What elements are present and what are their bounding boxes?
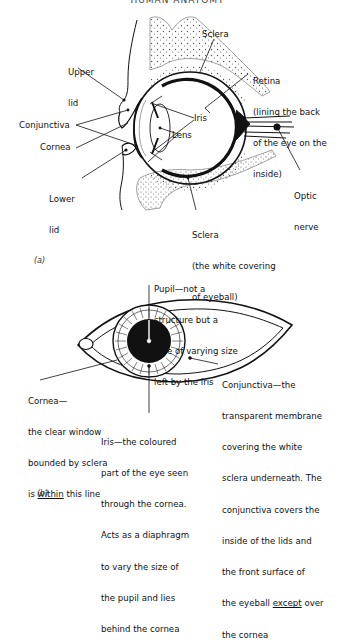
label-sclera-top: Sclera xyxy=(202,29,229,39)
label-line: lid xyxy=(68,98,94,108)
label-line: sclera underneath. The xyxy=(222,473,324,483)
label-line: behind the cornea xyxy=(101,624,189,634)
text-span: this line xyxy=(64,489,101,499)
label-line: bounded by sclera xyxy=(28,458,107,468)
label-optic-nerve: Optic nerve xyxy=(294,170,319,243)
label-line: Iris—the coloured xyxy=(101,437,189,447)
label-upper-lid: Upper lid xyxy=(68,46,94,119)
label-line: Pupil—not a xyxy=(154,284,238,294)
figure-b-caption: (b) xyxy=(37,489,48,498)
label-line: of the eye on the xyxy=(253,138,327,148)
label-line: inside of the lids and xyxy=(222,536,324,546)
label-line: (lining the back xyxy=(253,107,327,117)
label-line: hole of varying size xyxy=(154,346,238,356)
label-lens: Lens xyxy=(172,130,192,140)
label-line: the clear window xyxy=(28,427,107,437)
text-span: over xyxy=(302,598,324,608)
label-line: Acts as a diaphragm xyxy=(101,530,189,540)
label-line: the front surface of xyxy=(222,567,324,577)
label-line: to vary the size of xyxy=(101,562,189,572)
emphasis-except: except xyxy=(273,598,302,608)
label-line: Lower xyxy=(49,194,75,204)
label-conjunctiva-b: Conjunctiva—the transparent membrane cov… xyxy=(222,359,324,642)
label-conjunctiva: Conjunctiva xyxy=(19,120,70,130)
label-iris-b: Iris—the coloured part of the eye seen t… xyxy=(101,416,189,642)
label-line: Optic xyxy=(294,191,319,201)
label-line: transparent membrane xyxy=(222,411,324,421)
label-lower-lid: Lower lid xyxy=(49,173,75,246)
label-line: lid xyxy=(49,225,75,235)
figure-a-caption: (a) xyxy=(34,256,45,265)
label-line: part of the eye seen xyxy=(101,468,189,478)
retina-lining xyxy=(162,79,236,176)
label-line: the cornea xyxy=(222,630,324,640)
cornea-inner xyxy=(139,100,146,156)
label-line: nerve xyxy=(294,222,319,232)
label-line: Conjunctiva—the xyxy=(222,380,324,390)
label-line: structure but a xyxy=(154,315,238,325)
label-line: the pupil and lies xyxy=(101,593,189,603)
face-profile-lower xyxy=(120,146,123,210)
label-line: through the cornea. xyxy=(101,499,189,509)
label-line: Retina xyxy=(253,76,327,86)
label-line: the eyeball except over xyxy=(222,598,324,608)
label-cornea: Cornea xyxy=(40,142,71,152)
label-line: covering the white xyxy=(222,442,324,452)
label-line: Cornea— xyxy=(28,396,107,406)
label-line: conjunctiva covers the xyxy=(222,505,324,515)
label-line: Upper xyxy=(68,67,94,77)
label-line: Sclera xyxy=(192,230,276,240)
text-span: the eyeball xyxy=(222,598,273,608)
label-iris: Iris xyxy=(194,113,207,123)
